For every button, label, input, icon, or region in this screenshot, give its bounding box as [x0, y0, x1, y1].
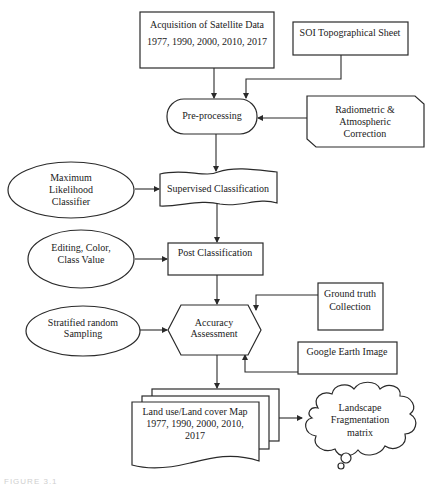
node-accuracy-line1: Accuracy	[195, 317, 233, 328]
node-acquisition-line2: 1977, 1990, 2000, 2010, 2017	[147, 36, 267, 47]
node-lulc-map-line1: Land use/Land cover Map	[142, 406, 247, 417]
node-radiometric-line3: Correction	[344, 128, 387, 139]
node-editing: Editing, Color, Class Value	[28, 230, 134, 288]
node-radiometric: Radiometric & Atmospheric Correction	[307, 96, 424, 147]
node-stratified-line1: Stratified random	[48, 317, 118, 328]
node-radiometric-line2: Atmospheric	[339, 116, 391, 127]
node-accuracy: Accuracy Assessment	[168, 305, 261, 355]
node-acquisition: Acquisition of Satellite Data 1977, 1990…	[140, 12, 274, 68]
node-supervised-line1: Supervised Classification	[167, 183, 269, 194]
node-stratified-line2: Sampling	[64, 328, 102, 339]
node-post-line1: Post Classification	[178, 247, 253, 258]
node-soi: SOI Topographical Sheet	[293, 22, 408, 55]
node-google-earth: Google Earth Image	[298, 342, 397, 374]
node-lulc-map: Land use/Land cover Map 1977, 1990, 2000…	[132, 389, 279, 468]
node-mlc-line2: Likelihood	[49, 184, 93, 195]
node-acquisition-line1: Acquisition of Satellite Data	[150, 19, 265, 30]
node-fragmentation: Landscape Fragmentation matrix	[306, 382, 416, 469]
node-editing-line2: Class Value	[58, 254, 105, 265]
node-soi-line1: SOI Topographical Sheet	[300, 27, 401, 38]
node-fragmentation-line1: Landscape	[339, 402, 382, 413]
flowchart-diagram: Acquisition of Satellite Data 1977, 1990…	[0, 0, 434, 488]
edge-groundtruth-to-accuracy	[256, 295, 318, 310]
node-google-earth-line1: Google Earth Image	[306, 346, 388, 357]
node-fragmentation-line3: matrix	[347, 427, 373, 438]
node-radiometric-line1: Radiometric &	[335, 104, 395, 115]
node-stratified: Stratified random Sampling	[26, 306, 140, 356]
node-preprocessing-line1: Pre-processing	[182, 110, 241, 121]
node-lulc-map-line3: 2017	[185, 430, 205, 441]
node-accuracy-line2: Assessment	[190, 328, 237, 339]
edge-googleearth-to-accuracy	[245, 355, 298, 372]
node-lulc-map-line2: 1977, 1990, 2000, 2010,	[146, 418, 244, 429]
node-ground-truth-line1: Ground truth	[324, 288, 376, 299]
node-supervised: Supervised Classification	[160, 169, 277, 206]
node-mlc-line3: Classifier	[52, 196, 91, 207]
node-ground-truth: Ground truth Collection	[318, 283, 383, 330]
node-post: Post Classification	[168, 243, 263, 275]
figure-caption: FIGURE 3.1	[4, 477, 58, 486]
node-preprocessing: Pre-processing	[167, 99, 257, 134]
node-ground-truth-line2: Collection	[329, 301, 371, 312]
node-mlc: Maximum Likelihood Classifier	[8, 162, 134, 218]
node-fragmentation-line2: Fragmentation	[331, 414, 389, 425]
node-mlc-line1: Maximum	[50, 172, 92, 183]
node-editing-line1: Editing, Color,	[51, 242, 110, 253]
